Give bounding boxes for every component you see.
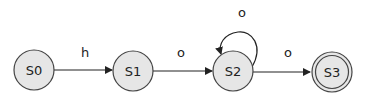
state-label: S3 (324, 65, 341, 80)
edge-s0-s1: h (54, 45, 112, 70)
state-label: S0 (26, 63, 43, 78)
edge-label: o (284, 45, 292, 60)
edge-s1-s2: o (153, 45, 212, 71)
state-s1: S1 (113, 51, 153, 91)
edge-label: o (238, 5, 246, 20)
state-label: S1 (125, 64, 142, 79)
state-diagram: h o o o S0 S1 S2 S3 (0, 0, 368, 100)
edge-label: h (81, 45, 89, 60)
state-s3-accepting: S3 (312, 52, 352, 92)
edge-label: o (177, 45, 185, 60)
state-s2: S2 (213, 51, 253, 91)
state-label: S2 (225, 64, 242, 79)
state-s0: S0 (14, 50, 54, 90)
edge-s2-s3: o (253, 45, 310, 72)
